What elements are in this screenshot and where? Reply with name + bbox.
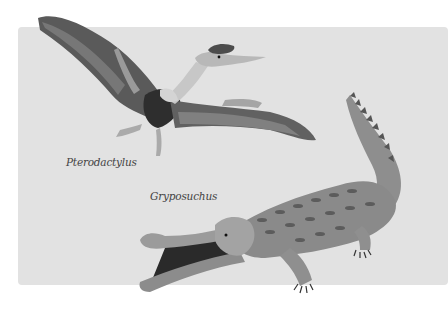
pterodactylus-label: Pterodactylus bbox=[66, 156, 137, 168]
gryposuchus-label: Gryposuchus bbox=[150, 190, 217, 202]
pterodactylus-illustration bbox=[38, 16, 316, 156]
